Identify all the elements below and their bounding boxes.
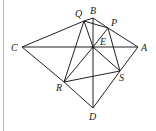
label-S: S: [119, 72, 124, 83]
label-P: P: [110, 17, 117, 28]
point-E-dot: [92, 46, 95, 49]
label-Q: Q: [75, 8, 83, 19]
segment-CR: [22, 47, 64, 82]
segment-SA: [120, 47, 138, 71]
segment-BP: [93, 18, 108, 28]
segment-RS: [64, 71, 120, 82]
segment-QP: [84, 21, 108, 28]
diagram-frame: C Q B P E A S R D: [0, 0, 156, 131]
segment-DS: [93, 71, 120, 108]
label-D: D: [88, 111, 97, 122]
segment-CQ: [22, 21, 84, 47]
label-E: E: [99, 36, 106, 47]
segment-ES: [93, 47, 120, 71]
label-R: R: [55, 82, 62, 93]
segment-RD: [64, 82, 93, 108]
label-C: C: [11, 42, 18, 53]
segment-QB: [84, 18, 93, 21]
geometry-diagram: C Q B P E A S R D: [0, 0, 156, 131]
segment-QE: [84, 21, 93, 47]
label-B: B: [90, 5, 96, 16]
segment-QR: [64, 21, 84, 82]
label-A: A: [140, 42, 148, 53]
